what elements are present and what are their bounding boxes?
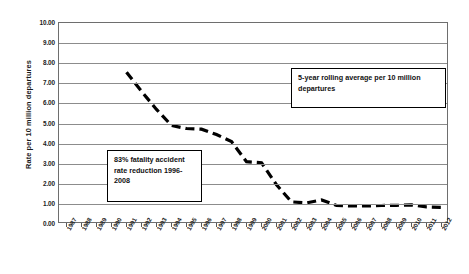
- y-axis-tick-label: 0.00: [21, 220, 55, 227]
- gridline: [59, 43, 447, 44]
- y-axis-tick-label: 8.00: [21, 59, 55, 66]
- y-axis-tick-label: 9.00: [21, 39, 55, 46]
- gridline: [59, 124, 447, 125]
- y-axis-tick-label: 5.00: [21, 119, 55, 126]
- gridline: [59, 63, 447, 64]
- gridline: [59, 204, 447, 205]
- annotation-rolling-average: 5-year rolling average per 10 million de…: [291, 68, 446, 108]
- chart-figure: Rate per 10 million departures 10.009.00…: [0, 0, 469, 274]
- y-axis-tick-label: 1.00: [21, 199, 55, 206]
- y-axis-tick-labels: 10.009.008.007.006.005.004.003.002.001.0…: [21, 0, 55, 274]
- y-axis-tick-label: 4.00: [21, 139, 55, 146]
- y-axis-tick-label: 7.00: [21, 79, 55, 86]
- y-axis-tick-label: 3.00: [21, 159, 55, 166]
- y-axis-tick-label: 2.00: [21, 179, 55, 186]
- x-axis-tick-labels: 1987198819891990199119921993199419951996…: [58, 228, 448, 274]
- y-axis-tick-label: 10.00: [21, 19, 55, 26]
- annotation-reduction: 83% fatality accident rate reduction 199…: [107, 150, 202, 202]
- gridline: [59, 144, 447, 145]
- y-axis-tick-label: 6.00: [21, 99, 55, 106]
